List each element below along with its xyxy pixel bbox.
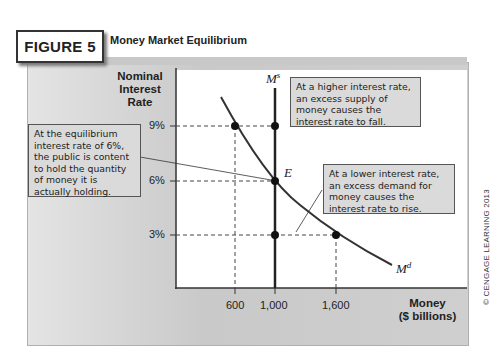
note-excess-supply: At a higher interest rate, an excess sup… — [290, 77, 421, 127]
note-excess-demand: At a lower interest rate, an excess dema… — [323, 164, 455, 214]
x-axis-label-line1: Money — [390, 297, 465, 310]
x-tick-1600: 1,600 — [322, 299, 350, 311]
x-axis-label: Money ($ billions) — [390, 297, 465, 323]
note-equilibrium: At the equilibrium interest rate of 6%, … — [28, 124, 141, 197]
y-axis-label: Nominal Interest Rate — [110, 70, 170, 109]
figure-badge: FIGURE 5 — [16, 30, 104, 63]
money-supply-label: Ms — [266, 70, 280, 87]
y-tick-6: 6% — [149, 174, 165, 186]
x-tick-1000: 1,000 — [260, 299, 288, 311]
y-tick-3: 3% — [149, 228, 165, 240]
y-tick-9: 9% — [149, 119, 165, 131]
x-axis-label-line2: ($ billions) — [390, 310, 465, 323]
x-tick-600: 600 — [226, 299, 244, 311]
equilibrium-label: E — [284, 165, 292, 181]
money-demand-label: Md — [396, 260, 411, 277]
copyright-text: © CENGAGE LEARNING 2013 — [482, 189, 491, 305]
